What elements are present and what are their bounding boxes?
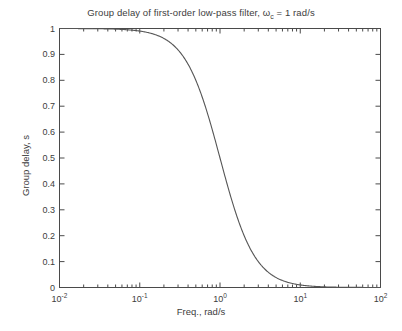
y-tick-label: 0.1 — [26, 257, 55, 267]
x-tick-label: 101 — [293, 292, 307, 304]
x-tick-exponent: 1 — [303, 292, 307, 299]
x-tick-exponent: 0 — [223, 292, 227, 299]
x-tick-mantissa: 10 — [52, 294, 62, 304]
x-tick-mantissa: 10 — [293, 294, 303, 304]
x-tick-exponent: 2 — [384, 292, 388, 299]
x-tick-exponent: -2 — [62, 292, 68, 299]
y-tick-label: 0.9 — [26, 49, 55, 59]
x-tick-mantissa: 10 — [213, 294, 223, 304]
x-tick-mantissa: 10 — [374, 294, 384, 304]
x-tick-label: 100 — [213, 292, 227, 304]
figure-canvas: Group delay of first-order low-pass filt… — [0, 0, 402, 331]
x-tick-exponent: -1 — [142, 292, 148, 299]
y-tick-label: 0.8 — [26, 75, 55, 85]
plot-area — [0, 0, 402, 331]
y-axis-label: Group delay, s — [20, 135, 31, 196]
y-tick-label: 0.7 — [26, 101, 55, 111]
x-tick-label: 102 — [374, 292, 388, 304]
x-tick-mantissa: 10 — [132, 294, 142, 304]
y-tick-label: 0.2 — [26, 231, 55, 241]
y-tick-label: 1 — [26, 24, 55, 34]
y-tick-label: 0.3 — [26, 205, 55, 215]
x-tick-label: 10-1 — [132, 292, 148, 304]
x-axis-label: Freq., rad/s — [0, 306, 402, 317]
x-tick-label: 10-2 — [52, 292, 68, 304]
